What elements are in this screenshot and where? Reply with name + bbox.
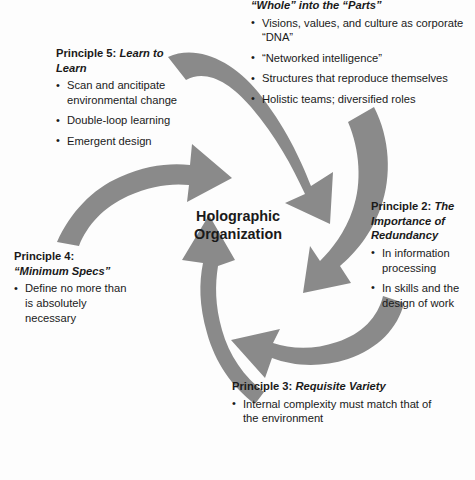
list-item: Scan and ancitipate environmental change	[56, 78, 196, 108]
list-item: Emergent design	[56, 134, 196, 149]
principle-4-heading: Principle 4:“Minimum Specs”	[14, 249, 134, 278]
list-item: Structures that reproduce themselves	[251, 71, 473, 86]
principle-4-heading-italic: “Minimum Specs”	[14, 265, 110, 277]
principle-3-block: Principle 3: Requisite Variety Internal …	[232, 379, 447, 432]
principle-1-block: “Whole” into the “Parts” Visions, values…	[251, 0, 473, 112]
principle-1-bullets: Visions, values, and culture as corporat…	[251, 16, 473, 107]
center-label: Holographic Organization	[168, 207, 308, 243]
principle-2-heading-plain: Principle 2:	[371, 200, 434, 212]
principle-3-heading-plain: Principle 3:	[232, 380, 295, 392]
list-item: Internal complexity must match that of t…	[232, 397, 447, 427]
arrow-from-principle-3	[182, 215, 264, 404]
principle-4-heading-plain: Principle 4:	[14, 250, 74, 262]
principle-4-block: Principle 4:“Minimum Specs” Define no mo…	[14, 249, 134, 331]
principle-3-bullets: Internal complexity must match that of t…	[232, 397, 447, 427]
principle-5-heading: Principle 5: Learn to Learn	[56, 46, 196, 75]
list-item: Define no more than is absolutely necess…	[14, 281, 134, 326]
list-item: In information processing	[371, 246, 471, 276]
list-item: In skills and the design of work	[371, 281, 471, 311]
principle-2-block: Principle 2: The Importance of Redundanc…	[371, 199, 471, 316]
list-item: Double-loop learning	[56, 113, 196, 128]
principle-2-heading: Principle 2: The Importance of Redundanc…	[371, 199, 471, 243]
principle-5-heading-plain: Principle 5:	[56, 47, 119, 59]
principle-5-block: Principle 5: Learn to Learn Scan and anc…	[56, 46, 196, 154]
principle-4-bullets: Define no more than is absolutely necess…	[14, 281, 134, 326]
principle-1-heading-italic: “Whole” into the “Parts”	[251, 0, 382, 11]
list-item: Visions, values, and culture as corporat…	[251, 16, 473, 46]
principle-3-heading: Principle 3: Requisite Variety	[232, 379, 447, 394]
center-label-line1: Holographic	[168, 207, 308, 225]
list-item: “Networked intelligence”	[251, 51, 473, 66]
principle-3-heading-italic: Requisite Variety	[295, 380, 385, 392]
list-item: Holistic teams; diversified roles	[251, 92, 473, 107]
principle-5-bullets: Scan and ancitipate environmental change…	[56, 78, 196, 149]
principle-2-bullets: In information processing In skills and …	[371, 246, 471, 311]
diagram-canvas: Holographic Organization “Whole” into th…	[0, 0, 475, 480]
center-label-line2: Organization	[168, 225, 308, 243]
principle-1-heading: “Whole” into the “Parts”	[251, 0, 473, 13]
